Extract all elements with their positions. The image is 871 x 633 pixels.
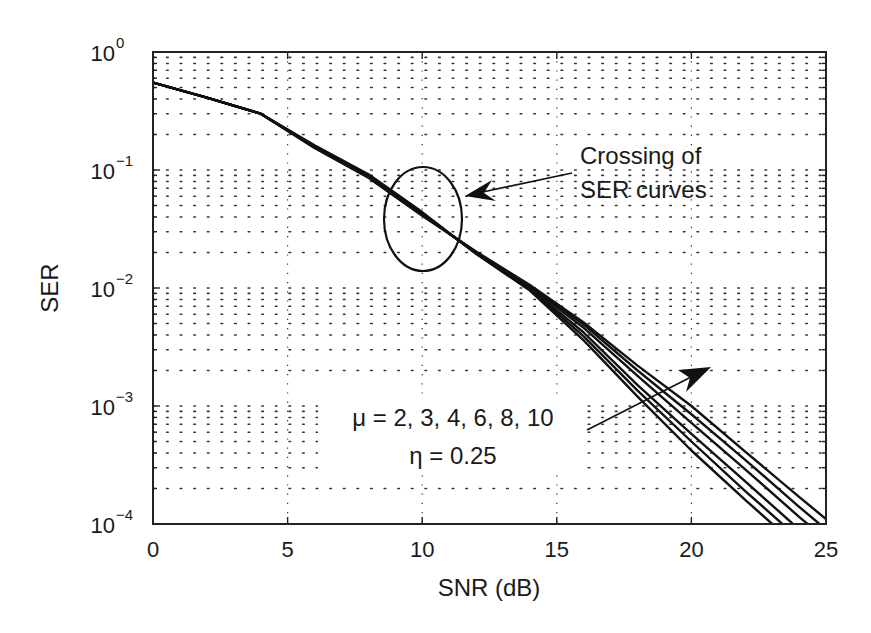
y-tick-label: 10 [91,395,115,420]
ser-vs-snr-chart: 0510152025 10010−110−210−310−4 SNR (dB) … [0,0,871,633]
x-tick-label: 5 [281,537,293,562]
y-tick-exponent: −1 [116,152,133,169]
x-tick-label: 15 [545,537,569,562]
eta-label: η = 0.25 [409,442,496,469]
x-tick-label: 0 [147,537,159,562]
crossing-label-line1: Crossing of [580,142,702,169]
y-tick-labels: 10010−110−210−310−4 [91,34,134,538]
mu-arrowhead-icon [678,367,711,392]
y-tick-label: 10 [91,41,115,66]
crossing-label-line2: SER curves [580,176,707,203]
y-tick-exponent: −3 [116,388,133,405]
ser-curve-mu2 [153,83,826,571]
y-tick-label: 10 [91,277,115,302]
crossing-ellipse [384,167,462,271]
x-tick-label: 20 [679,537,703,562]
x-tick-label: 10 [410,537,434,562]
mu-label: μ = 2, 3, 4, 6, 8, 10 [352,404,553,431]
y-axis-title: SER [36,263,63,312]
x-tick-label: 25 [814,537,838,562]
y-tick-label: 10 [91,159,115,184]
x-tick-labels: 0510152025 [147,537,838,562]
y-tick-exponent: 0 [116,34,124,51]
x-axis-title: SNR (dB) [438,574,541,601]
ser-curve-mu3 [153,83,826,562]
y-tick-label: 10 [91,513,115,538]
y-tick-exponent: −2 [116,270,133,287]
crossing-arrow-shaft [478,173,572,193]
ser-curves [153,83,826,571]
y-tick-exponent: −4 [116,506,133,523]
